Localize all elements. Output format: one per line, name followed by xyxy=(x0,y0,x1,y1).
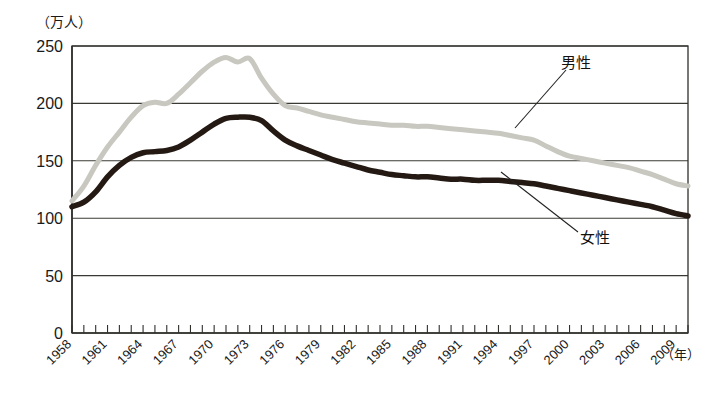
male-annotation-leader-line xyxy=(515,70,566,128)
y-axis-unit-label: （万人） xyxy=(36,14,92,30)
x-axis-tick-label: 1976 xyxy=(256,337,287,368)
x-axis-tick-labels: 1958196119641967197019731976197919821985… xyxy=(43,337,678,368)
x-axis-tick-label: 1958 xyxy=(43,337,74,368)
female-annotation-label: 女性 xyxy=(580,229,610,246)
y-axis-tick-label: 100 xyxy=(36,210,63,227)
x-axis-tick-label: 1982 xyxy=(327,337,358,368)
y-axis-tick-label: 50 xyxy=(45,268,63,285)
x-axis-tickmarks xyxy=(72,325,688,333)
population-line-chart: 050100150200250 195819611964196719701973… xyxy=(0,0,712,399)
y-axis-tick-label: 150 xyxy=(36,153,63,170)
x-axis-tick-label: 1994 xyxy=(470,337,501,368)
chart-container: 050100150200250 195819611964196719701973… xyxy=(0,0,712,399)
x-axis-tick-label: 2006 xyxy=(612,337,643,368)
male-annotation-label: 男性 xyxy=(561,54,591,71)
x-axis-tick-label: 1973 xyxy=(221,337,252,368)
series-line-female xyxy=(72,117,688,216)
plot-frame xyxy=(72,46,688,333)
x-axis-tick-label: 1988 xyxy=(398,337,429,368)
x-axis-tick-label: 1970 xyxy=(185,337,216,368)
x-axis-tick-label: 1961 xyxy=(79,337,110,368)
y-axis-tick-label: 200 xyxy=(36,95,63,112)
x-axis-tick-label: 1985 xyxy=(363,337,394,368)
x-axis-tick-label: 2003 xyxy=(576,337,607,368)
x-axis-tick-label: 2000 xyxy=(541,337,572,368)
x-axis-tick-label: 1964 xyxy=(114,337,145,368)
series-line-male xyxy=(72,57,688,201)
x-axis-tick-label: 1991 xyxy=(434,337,465,368)
y-axis-tick-label: 250 xyxy=(36,38,63,55)
y-axis-tick-labels: 050100150200250 xyxy=(36,38,63,342)
x-axis-tick-label: 1979 xyxy=(292,337,323,368)
female-annotation-leader-line xyxy=(501,172,578,232)
x-axis-tick-label: 1967 xyxy=(150,337,181,368)
x-axis-tick-label: 1997 xyxy=(505,337,536,368)
x-axis-unit-label: （年） xyxy=(661,347,700,362)
